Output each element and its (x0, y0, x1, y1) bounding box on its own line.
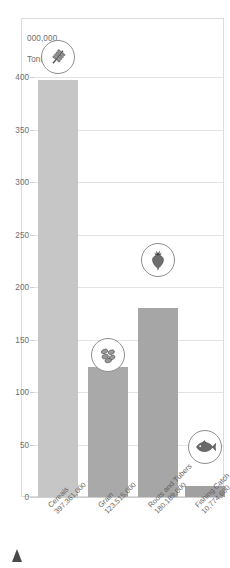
ytick-label-250: 250 (15, 230, 29, 239)
bar-chart: 000,000 Tonnes 400 350 300 250 200 150 (0, 0, 230, 568)
bar-grain[interactable] (88, 367, 128, 497)
fish-icon-badge (188, 430, 222, 464)
root-vegetable-icon (147, 249, 169, 271)
grain-seeds-icon (97, 344, 119, 366)
page-marker-triangle-icon (12, 549, 22, 562)
wheat-stalk-icon (47, 46, 69, 68)
ytick-label-50: 50 (20, 440, 29, 449)
plot-area: 400 350 300 250 200 150 100 50 (34, 70, 223, 497)
root-vegetable-icon-badge (141, 243, 175, 277)
ytick-label-100: 100 (15, 388, 29, 397)
bar-roots-and-tubers[interactable] (138, 308, 178, 497)
ytick-label-400: 400 (15, 73, 29, 82)
gridline-0-baseline: 0 (34, 497, 223, 498)
ytick-mark-0 (30, 497, 34, 498)
fish-icon (193, 436, 217, 458)
grain-seeds-icon-badge (91, 338, 125, 372)
bar-fishing-catch[interactable] (185, 486, 225, 497)
wheat-stalk-icon-badge (41, 40, 75, 74)
ytick-label-200: 200 (15, 283, 29, 292)
ytick-label-150: 150 (15, 335, 29, 344)
ytick-label-350: 350 (15, 125, 29, 134)
bar-cereals[interactable] (38, 80, 78, 497)
ytick-label-300: 300 (15, 178, 29, 187)
ytick-label-0: 0 (24, 493, 29, 502)
